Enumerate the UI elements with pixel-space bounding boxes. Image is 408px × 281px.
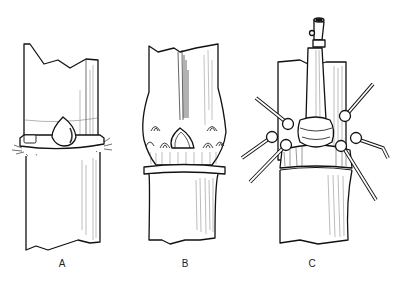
panel-label-a: A [52,258,72,269]
panel-label-c: C [302,258,322,269]
panel-c-drawing [242,18,388,244]
bamboo-node-illustration [0,0,408,281]
panel-b-drawing [143,44,226,244]
panel-label-b: B [175,258,195,269]
panel-a-drawing [12,44,112,250]
